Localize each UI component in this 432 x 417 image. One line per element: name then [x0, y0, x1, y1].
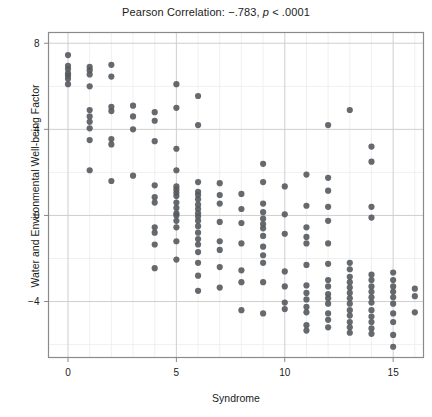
data-point [390, 310, 396, 316]
data-point [325, 204, 331, 210]
data-point [303, 322, 309, 328]
data-point [152, 199, 158, 205]
data-point [173, 199, 179, 205]
data-point [303, 262, 309, 268]
data-point [173, 81, 179, 87]
data-point [130, 173, 136, 179]
data-point [347, 319, 353, 325]
data-point [390, 344, 396, 350]
data-point [152, 265, 158, 271]
data-point [195, 122, 201, 128]
data-point [282, 300, 288, 306]
data-point [347, 301, 353, 307]
data-point [325, 301, 331, 307]
data-point [152, 138, 158, 144]
data-point [130, 103, 136, 109]
data-point [368, 272, 374, 278]
data-point [87, 113, 93, 119]
data-point [108, 178, 114, 184]
data-point [368, 159, 374, 165]
data-point [368, 277, 374, 283]
data-point [260, 225, 266, 231]
data-point [108, 74, 114, 80]
data-point [412, 293, 418, 299]
x-tick-label: 15 [388, 367, 400, 378]
data-point [217, 264, 223, 270]
data-point [325, 277, 331, 283]
data-point [303, 328, 309, 334]
data-point [368, 319, 374, 325]
data-point [368, 289, 374, 295]
data-point [260, 252, 266, 258]
data-point [195, 179, 201, 185]
data-point [303, 290, 309, 296]
data-point [195, 93, 201, 99]
data-point [260, 233, 266, 239]
data-point [173, 256, 179, 262]
data-point [195, 218, 201, 224]
data-point [325, 310, 331, 316]
data-point [368, 325, 374, 331]
data-point [325, 122, 331, 128]
data-point [217, 192, 223, 198]
data-point [173, 218, 179, 224]
data-point [282, 306, 288, 312]
data-point [108, 141, 114, 147]
data-point [325, 283, 331, 289]
data-point [130, 113, 136, 119]
data-point [217, 247, 223, 253]
data-point [325, 295, 331, 301]
data-point [347, 279, 353, 285]
data-point [390, 319, 396, 325]
x-tick-label: 0 [65, 367, 71, 378]
data-point [108, 136, 114, 142]
y-tick-label: −4 [28, 296, 40, 307]
data-point [152, 118, 158, 124]
data-point [368, 204, 374, 210]
data-point [130, 126, 136, 132]
data-point [195, 196, 201, 202]
data-point [347, 295, 353, 301]
data-point [390, 277, 396, 283]
data-point [173, 146, 179, 152]
data-point [390, 283, 396, 289]
x-axis-ticks: 051015 [65, 358, 399, 378]
data-point [303, 282, 309, 288]
data-point [87, 119, 93, 125]
data-point [368, 331, 374, 337]
data-point [325, 188, 331, 194]
data-point [195, 273, 201, 279]
data-point [152, 230, 158, 236]
y-axis-ticks: −4048 [28, 38, 48, 307]
data-point [87, 107, 93, 113]
plot-area: 051015 −4048 [0, 0, 432, 417]
data-point [325, 218, 331, 224]
data-point [412, 309, 418, 315]
data-point [152, 182, 158, 188]
data-point [347, 324, 353, 330]
data-point [65, 52, 71, 58]
grid-major-vertical [68, 33, 393, 358]
y-tick-label: 4 [34, 124, 40, 135]
data-point [303, 304, 309, 310]
data-point [87, 125, 93, 131]
data-point [238, 220, 244, 226]
data-point [390, 289, 396, 295]
data-point [390, 294, 396, 300]
data-point [173, 205, 179, 211]
data-point [303, 296, 309, 302]
data-point [368, 215, 374, 221]
data-point [390, 301, 396, 307]
data-point [195, 230, 201, 236]
data-point [368, 300, 374, 306]
data-point [303, 309, 309, 315]
data-point [87, 167, 93, 173]
data-point [412, 286, 418, 292]
data-point [173, 238, 179, 244]
data-point [87, 83, 93, 89]
data-point [347, 260, 353, 266]
data-point [282, 211, 288, 217]
data-point [303, 203, 309, 209]
data-point [65, 81, 71, 87]
grid-minor-vertical [90, 33, 415, 358]
